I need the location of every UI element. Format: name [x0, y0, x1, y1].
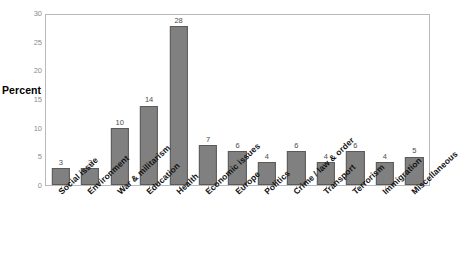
bar-group: 4 — [370, 15, 399, 185]
y-axis-tick-label: 0 — [20, 182, 42, 190]
bar-value-label: 10 — [115, 119, 123, 127]
bar-value-label: 3 — [59, 159, 63, 167]
bar-group: 4 — [252, 15, 281, 185]
bar-group: 6 — [341, 15, 370, 185]
y-axis-tick-label: 25 — [20, 39, 42, 47]
bar-value-label: 6 — [294, 142, 298, 150]
y-axis-tick-label: 5 — [20, 154, 42, 162]
y-axis-tick-label: 20 — [20, 68, 42, 76]
y-axis-tick-label: 10 — [20, 125, 42, 133]
y-axis-tick-label: 30 — [20, 10, 42, 18]
bar-group: 6 — [282, 15, 311, 185]
y-axis-tick-labels: 051015202530 — [16, 14, 42, 186]
bar-group: 3 — [46, 15, 75, 185]
bar-value-label: 28 — [174, 17, 182, 25]
y-axis-tick-label: 15 — [20, 96, 42, 104]
bar-value-label: 5 — [412, 147, 416, 155]
bar — [169, 26, 187, 185]
bar-group: 28 — [164, 15, 193, 185]
bar-value-label: 4 — [383, 153, 387, 161]
x-axis-category-labels: Social issueEnvironmentWar & militarismE… — [46, 190, 442, 272]
bar-value-label: 14 — [145, 96, 153, 104]
bar-value-label: 6 — [235, 142, 239, 150]
bar-value-label: 7 — [206, 136, 210, 144]
bar-value-label: 4 — [265, 153, 269, 161]
bar-group: 7 — [193, 15, 222, 185]
